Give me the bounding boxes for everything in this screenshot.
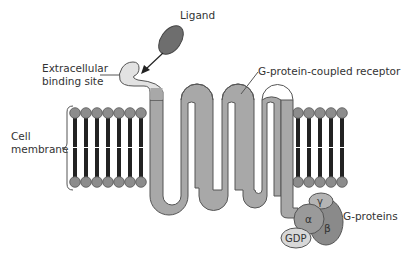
- lipid-head: [337, 177, 348, 188]
- lipid-head: [337, 108, 348, 119]
- lipid-head: [70, 108, 81, 119]
- lipid: [326, 108, 337, 188]
- lipid-head: [125, 177, 136, 188]
- lipid-head: [293, 177, 304, 188]
- binding-site-label-2: binding site: [42, 75, 103, 87]
- lipid: [293, 108, 304, 188]
- lipid-head: [92, 108, 103, 119]
- lipid-head: [315, 177, 326, 188]
- lipid-head: [326, 108, 337, 119]
- g-proteins-label: G-proteins: [343, 210, 398, 222]
- lipid: [337, 108, 348, 188]
- lipid: [70, 108, 81, 188]
- lipid: [81, 108, 92, 188]
- gpcr-diagram: α β γ GDP Ligand Extracellular binding s…: [0, 0, 401, 257]
- lipid-head: [103, 108, 114, 119]
- receptor: [119, 62, 298, 218]
- lipid: [114, 108, 125, 188]
- ligand-shape: [154, 21, 189, 59]
- binding-site-label-1: Extracellular: [42, 62, 109, 74]
- lipid: [136, 108, 147, 188]
- ligand-arrow: [146, 53, 163, 69]
- lipid-head: [81, 108, 92, 119]
- lipid-head: [304, 177, 315, 188]
- lipid: [92, 108, 103, 188]
- gamma-label: γ: [317, 196, 323, 207]
- receptor-body: [150, 84, 281, 215]
- membrane-label-2: membrane: [11, 143, 68, 155]
- lipid-head: [70, 177, 81, 188]
- membrane-label-1: Cell: [11, 130, 31, 142]
- receptor-label: G-protein-coupled receptor: [258, 65, 401, 77]
- lipid-head: [92, 177, 103, 188]
- lipid-head: [136, 177, 147, 188]
- lipid-head: [326, 177, 337, 188]
- alpha-label: α: [305, 213, 312, 225]
- lipid: [103, 108, 114, 188]
- lipid: [304, 108, 315, 188]
- cell-membrane-right: [293, 108, 348, 188]
- beta-label: β: [324, 222, 331, 234]
- lipid: [125, 108, 136, 188]
- lipid-head: [136, 108, 147, 119]
- lipid: [315, 108, 326, 188]
- lipid-head: [114, 177, 125, 188]
- lipid-head: [125, 108, 136, 119]
- cell-membrane-left: [70, 108, 147, 188]
- ligand-label: Ligand: [180, 9, 215, 21]
- lipid-head: [315, 108, 326, 119]
- lipid-head: [81, 177, 92, 188]
- lipid-head: [304, 108, 315, 119]
- gdp-label: GDP: [285, 233, 306, 244]
- lipid-head: [293, 108, 304, 119]
- lipid-head: [114, 108, 125, 119]
- lipid-head: [103, 177, 114, 188]
